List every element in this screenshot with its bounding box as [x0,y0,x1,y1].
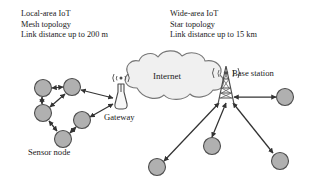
star-link-bs-s3 [233,103,273,153]
sensor-node-icon [204,138,221,155]
sensor-node-icon [55,131,72,148]
local-caption-line-3: Link distance up to 200 m [21,30,108,41]
wide-area-caption: Wide-area IoT Star topology Link distanc… [170,9,257,41]
gateway-label: Gateway [104,112,135,122]
local-caption-line-2: Mesh topology [21,20,108,31]
star-links [164,97,276,161]
wide-caption-line-1: Wide-area IoT [170,9,257,20]
mesh-link-m2-gw [81,90,113,98]
figure-canvas: Local-area IoT Mesh topology Link distan… [0,0,311,179]
star-nodes [149,89,294,176]
sensor-node-icon [149,159,166,176]
mesh-link-m1-m2 [52,87,63,88]
sensor-node-icon [35,105,52,122]
mesh-link-m3-m5 [49,121,57,131]
local-caption-line-1: Local-area IoT [21,9,108,20]
internet-label: Internet [153,71,181,81]
base-station-label: Base station [232,68,274,78]
sensor-node-label: Sensor node [28,147,70,157]
sensor-node-icon [74,112,91,129]
local-area-caption: Local-area IoT Mesh topology Link distan… [21,9,108,41]
mesh-link-m3-m2 [50,94,65,107]
wide-caption-line-3: Link distance up to 15 km [170,30,257,41]
mesh-nodes [35,79,91,148]
sensor-node-icon [64,79,81,96]
mesh-link-m5-m4 [70,127,76,133]
sensor-node-icon [277,89,294,106]
wide-caption-line-2: Star topology [170,20,257,31]
sensor-node-icon [35,80,52,97]
sensor-node-icon [272,153,289,170]
